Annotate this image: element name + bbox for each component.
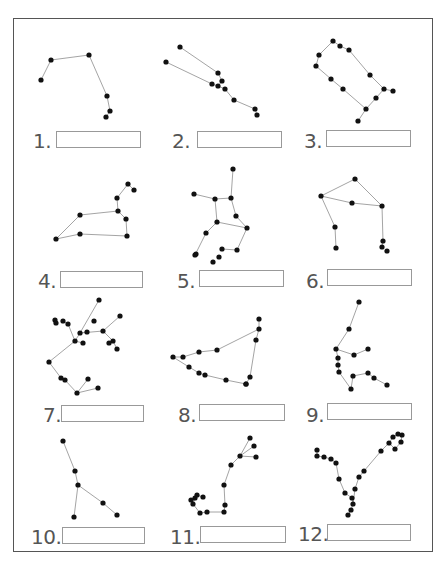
answer-field-1[interactable] <box>56 131 141 148</box>
answer-field-11[interactable] <box>200 526 286 543</box>
item-number-label: 4. <box>38 271 56 291</box>
answer-field-9[interactable] <box>327 403 412 420</box>
answer-field-12[interactable] <box>327 524 411 541</box>
item-number-label: 5. <box>177 271 195 291</box>
answer-field-10[interactable] <box>62 527 145 544</box>
answer-field-7[interactable] <box>61 405 144 422</box>
item-number-label: 1. <box>33 131 51 151</box>
item-number-label: 6. <box>306 271 324 291</box>
answer-field-8[interactable] <box>199 404 285 421</box>
item-number-label: 12. <box>298 524 328 544</box>
answer-field-3[interactable] <box>326 130 411 147</box>
answer-field-2[interactable] <box>197 131 282 148</box>
item-number-label: 3. <box>304 131 322 151</box>
item-number-label: 8. <box>178 405 196 425</box>
item-number-label: 2. <box>172 131 190 151</box>
item-number-label: 9. <box>306 405 324 425</box>
item-number-label: 10. <box>31 527 61 547</box>
item-number-label: 7. <box>43 405 61 425</box>
item-number-label: 11. <box>170 527 200 547</box>
answer-field-4[interactable] <box>60 271 143 288</box>
answer-field-6[interactable] <box>327 269 412 286</box>
answer-field-5[interactable] <box>199 270 284 287</box>
